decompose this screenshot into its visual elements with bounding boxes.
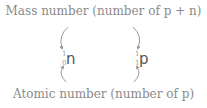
atomic-arrow-neutron — [61, 67, 66, 82]
proton-symbol: p — [139, 50, 149, 68]
atomic-number-label: Atomic number (number of p) — [0, 87, 207, 101]
neutron-symbol: n — [66, 50, 76, 68]
atomic-arrow-proton — [134, 67, 139, 82]
mass-arrow-proton — [133, 27, 140, 48]
mass-arrow-neutron — [61, 27, 68, 48]
